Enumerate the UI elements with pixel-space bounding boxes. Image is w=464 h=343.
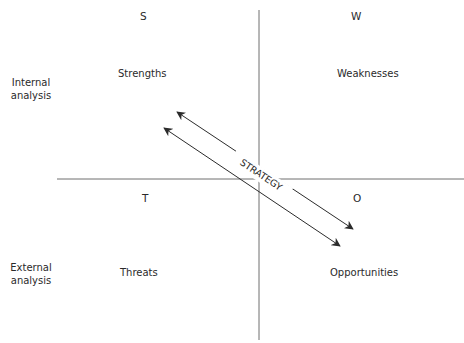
quadrant-label-strengths: Strengths <box>118 67 166 80</box>
diagram-graphics <box>0 0 464 343</box>
quadrant-letter-o: O <box>353 192 361 205</box>
row-label-external-line1: External <box>8 261 54 274</box>
swot-diagram: STRATEGY S W T O Strengths Weaknesses Th… <box>0 0 464 343</box>
row-label-internal: Internal analysis <box>8 76 54 102</box>
row-label-external-line2: analysis <box>8 274 54 287</box>
quadrant-letter-w: W <box>351 10 361 23</box>
row-label-external: External analysis <box>8 261 54 287</box>
row-label-internal-line2: analysis <box>8 89 54 102</box>
quadrant-label-weaknesses: Weaknesses <box>337 67 399 80</box>
quadrant-label-threats: Threats <box>120 266 158 279</box>
row-label-internal-line1: Internal <box>8 76 54 89</box>
strategy-arrow-lower <box>164 128 340 246</box>
quadrant-label-opportunities: Opportunities <box>330 266 398 279</box>
quadrant-letter-s: S <box>140 10 147 23</box>
quadrant-letter-t: T <box>142 192 148 205</box>
